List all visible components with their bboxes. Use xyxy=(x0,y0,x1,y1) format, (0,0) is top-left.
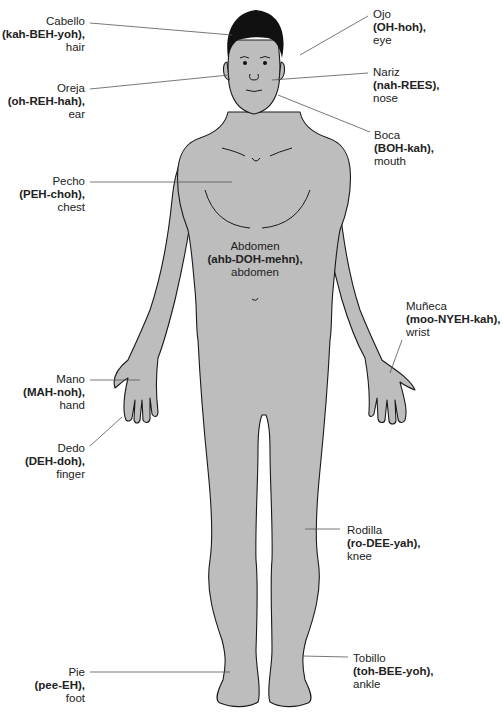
label-ojo: Ojo(OH-hoh),eye xyxy=(373,8,426,47)
label-boca: Boca(BOH-kah),mouth xyxy=(374,129,434,168)
label-abdomen: Abdomen(ahb-DOH-mehn),abdomen xyxy=(205,240,305,279)
head xyxy=(228,40,280,114)
label-mano: Mano(MAH-noh),hand xyxy=(0,373,85,412)
label-pie: Pie(pee-EH),foot xyxy=(0,666,85,705)
label-cabello: Cabello(kah-BEH-yoh),hair xyxy=(0,15,85,54)
torso-legs xyxy=(177,112,350,707)
label-dedo: Dedo(DEH-doh),finger xyxy=(0,442,85,481)
label-oreja: Oreja(oh-REH-hah),ear xyxy=(0,82,85,121)
label-pecho: Pecho(PEH-choh),chest xyxy=(0,175,85,214)
label-nariz: Nariz(nah-REES),nose xyxy=(373,66,439,105)
label-rodilla: Rodilla(ro-DEE-yah),knee xyxy=(347,524,420,563)
label-muneca: Muñeca(moo-NYEH-kah),wrist xyxy=(406,300,501,339)
label-tobillo: Tobillo(toh-BEE-yoh),ankle xyxy=(353,652,433,691)
